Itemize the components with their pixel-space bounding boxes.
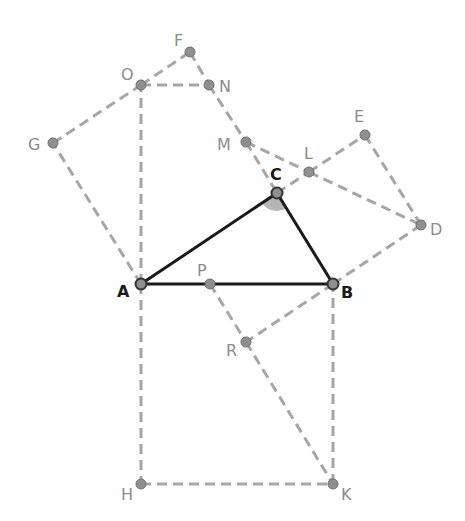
point-k xyxy=(328,479,338,489)
segment-rk xyxy=(246,342,333,484)
side-ca xyxy=(141,193,277,284)
label-r: R xyxy=(226,341,237,360)
point-e xyxy=(360,130,370,140)
label-d: D xyxy=(430,220,442,239)
label-a: A xyxy=(117,282,130,301)
label-p: P xyxy=(197,261,207,280)
point-h xyxy=(136,479,146,489)
segment-ld xyxy=(309,172,421,225)
label-o: O xyxy=(121,65,134,84)
segment-ag xyxy=(53,143,141,284)
label-k: K xyxy=(341,485,352,504)
diagram-canvas: ABCDEFGHKLMNOPR xyxy=(0,0,465,521)
segment-go xyxy=(53,85,141,143)
point-f xyxy=(185,47,195,57)
segment-pr xyxy=(210,284,246,342)
construction-lines xyxy=(53,52,421,484)
segment-of xyxy=(141,52,190,85)
point-labels: ABCDEFGHKLMNOPR xyxy=(28,31,442,504)
label-e: E xyxy=(354,107,364,126)
segment-ed xyxy=(365,135,421,225)
label-n: N xyxy=(219,77,231,96)
segment-le xyxy=(309,135,365,172)
label-f: F xyxy=(174,31,183,50)
point-d xyxy=(416,220,426,230)
point-p xyxy=(205,279,215,289)
label-g: G xyxy=(28,135,40,154)
label-b: B xyxy=(341,283,353,302)
geometry-diagram: ABCDEFGHKLMNOPR xyxy=(0,0,465,521)
point-a xyxy=(136,279,147,290)
point-m xyxy=(241,137,251,147)
side-bc xyxy=(277,193,333,284)
point-b xyxy=(328,279,339,290)
point-l xyxy=(304,167,314,177)
point-c xyxy=(272,188,283,199)
point-n xyxy=(204,80,214,90)
segment-br xyxy=(246,284,333,342)
label-c: C xyxy=(270,165,282,184)
points xyxy=(48,47,426,489)
label-m: M xyxy=(217,135,231,154)
segment-db xyxy=(333,225,421,284)
triangle-abc xyxy=(141,193,333,284)
point-g xyxy=(48,138,58,148)
point-r xyxy=(241,337,251,347)
label-h: H xyxy=(121,485,133,504)
point-o xyxy=(136,80,146,90)
segment-fn xyxy=(190,52,209,85)
label-l: L xyxy=(304,144,313,163)
